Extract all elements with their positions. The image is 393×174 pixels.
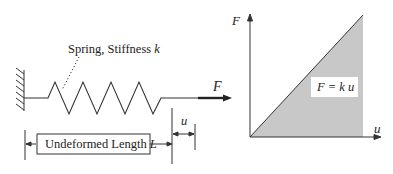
length-symbol: L (150, 137, 157, 151)
stiffness-symbol: k (154, 42, 160, 56)
x-axis-label: u (374, 122, 381, 135)
spring-force-diagram: Spring, Stiffness k F Undeformed Length … (0, 0, 393, 174)
spring-icon (24, 82, 200, 114)
displacement-label: u (181, 115, 187, 128)
spring-label-text: Spring, Stiffness (68, 42, 151, 56)
spring-label: Spring, Stiffness k (68, 43, 160, 56)
length-label-text: Undeformed Length (45, 137, 147, 151)
fixed-wall-icon (16, 68, 24, 111)
force-label: F (213, 80, 222, 94)
y-axis-label: F (232, 14, 240, 27)
equation-label: F = k u (317, 81, 354, 94)
length-label: Undeformed Length L (45, 138, 157, 151)
force-arrow-icon (198, 95, 232, 102)
leader-line (62, 57, 79, 90)
